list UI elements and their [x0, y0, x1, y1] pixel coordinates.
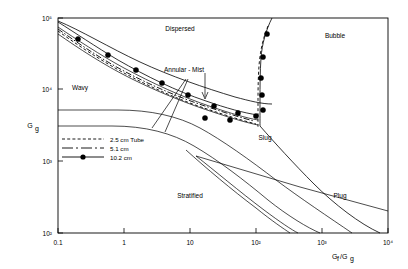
- flow-regime-map-figure: 0.1 1 10 10² 10³ 10⁴ 10⁵ 10⁴ 10³ 10² G g…: [0, 0, 408, 269]
- x-tick-label-0: 0.1: [53, 239, 62, 246]
- x-tick-label-1: 1: [122, 239, 126, 246]
- x-tick-label-4: 10³: [317, 239, 327, 246]
- region-label-stratified: Stratified: [177, 192, 203, 199]
- y-tick-label-0: 10⁵: [42, 15, 52, 22]
- region-label-wavy: Wavy: [72, 84, 89, 92]
- x-axis-title-sub-f: f: [337, 255, 339, 262]
- legend-label-25cm: 2.5 cm Tube: [110, 136, 145, 143]
- x-tick-label-5: 10⁴: [383, 239, 393, 246]
- y-tick-label-3: 10²: [43, 230, 53, 237]
- x-tick-label-3: 10²: [251, 239, 261, 246]
- region-label-bubble: Bubble: [325, 32, 346, 39]
- x-axis-title-slash-g: /G: [340, 253, 347, 260]
- region-label-plug: Plug: [333, 192, 346, 200]
- legend-swatch-marker-icon: [80, 154, 85, 159]
- y-tick-label-1: 10⁴: [42, 86, 52, 93]
- chart-background: [0, 0, 408, 269]
- chart-svg: 0.1 1 10 10² 10³ 10⁴ 10⁵ 10⁴ 10³ 10² G g…: [0, 0, 408, 269]
- x-tick-label-2: 10: [186, 239, 194, 246]
- y-axis-title-sub: g: [35, 125, 39, 133]
- region-label-annular-mist: Annular - Mist: [164, 66, 204, 73]
- x-axis-title-sub-g: g: [350, 255, 354, 263]
- legend-label-102cm: 10.2 cm: [110, 154, 132, 161]
- y-tick-label-2: 10³: [43, 158, 53, 165]
- region-label-dispersed: Dispersed: [165, 25, 195, 33]
- region-label-slug: Slug: [258, 134, 271, 142]
- legend-label-51cm: 5.1 cm: [110, 145, 129, 152]
- y-axis-title-main: G: [27, 122, 32, 129]
